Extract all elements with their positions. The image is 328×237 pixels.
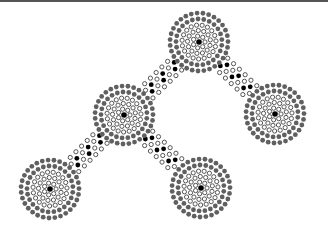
gray-dot — [200, 62, 205, 67]
open-dot — [256, 110, 260, 114]
gray-dot — [185, 20, 190, 25]
open-dot — [198, 174, 202, 178]
open-dot — [281, 120, 285, 124]
gray-dot — [174, 39, 179, 44]
gray-dot — [190, 18, 195, 23]
open-dot — [105, 111, 109, 115]
open-dot — [208, 43, 212, 47]
gray-dot — [120, 84, 125, 89]
open-dot — [214, 39, 218, 43]
open-dot — [156, 135, 160, 139]
open-dot — [205, 48, 209, 52]
gray-dot — [179, 63, 184, 68]
gray-dot — [250, 117, 255, 122]
gray-dot — [171, 195, 176, 200]
open-dot — [160, 65, 164, 69]
open-dot — [48, 204, 52, 208]
gray-dot — [174, 33, 179, 38]
gray-dot — [217, 199, 222, 204]
open-dot — [257, 105, 261, 109]
open-dot — [81, 157, 85, 161]
open-dot — [132, 127, 136, 131]
gray-dot — [19, 190, 24, 195]
gray-dot — [110, 93, 115, 98]
open-dot — [56, 172, 60, 176]
gray-dot — [244, 115, 249, 120]
gray-dot — [265, 84, 270, 89]
open-dot — [192, 195, 196, 199]
open-dot — [64, 191, 68, 195]
edge-middle-left-to-bottom-center — [143, 129, 184, 170]
open-dot — [191, 56, 195, 60]
open-dot — [261, 111, 265, 115]
gray-dot — [252, 122, 257, 127]
gray-dot — [76, 192, 81, 197]
open-dot — [94, 153, 98, 157]
gray-dot — [22, 201, 27, 206]
open-dot — [105, 117, 109, 121]
open-dot — [226, 56, 230, 60]
open-dot — [236, 80, 240, 84]
gray-dot — [131, 134, 136, 139]
gray-dot — [223, 28, 228, 33]
gray-dot — [182, 201, 187, 206]
gray-dot — [201, 17, 206, 22]
gray-dot — [144, 110, 149, 115]
gray-dot — [105, 128, 110, 133]
open-dot — [186, 53, 190, 57]
gray-dot — [104, 136, 109, 141]
gray-dot — [25, 186, 30, 191]
gray-dot — [206, 61, 211, 66]
gray-dot — [67, 165, 72, 170]
gray-dot — [297, 128, 302, 133]
gray-dot — [99, 118, 104, 123]
open-dot — [77, 169, 81, 173]
open-dot — [267, 102, 271, 106]
gray-dot — [26, 206, 31, 211]
open-dot — [261, 100, 265, 104]
gray-dot — [223, 51, 228, 56]
gray-dot — [105, 97, 110, 102]
open-dot — [224, 69, 228, 73]
open-dot — [112, 107, 116, 111]
open-dot — [237, 67, 241, 71]
filled-dot — [150, 89, 155, 94]
filled-dot — [173, 157, 178, 162]
open-dot — [61, 176, 65, 180]
gray-dot — [94, 122, 99, 127]
gray-dot — [141, 91, 146, 96]
gray-dot — [143, 122, 148, 127]
gray-dot — [256, 127, 261, 132]
open-dot — [278, 128, 282, 132]
gray-dot — [125, 135, 130, 140]
gray-dot — [225, 45, 230, 50]
open-dot — [289, 116, 293, 120]
open-dot — [262, 125, 266, 129]
open-dot — [120, 124, 124, 128]
open-dot — [106, 106, 110, 110]
open-dot — [122, 130, 126, 134]
open-dot — [197, 197, 201, 201]
gray-dot — [126, 141, 131, 146]
gray-dot — [171, 26, 176, 31]
gray-dot — [221, 56, 226, 61]
gray-dot — [137, 95, 142, 100]
open-dot — [119, 96, 123, 100]
gray-dot — [126, 84, 131, 89]
open-dot — [172, 164, 176, 168]
gray-dot — [136, 131, 141, 136]
open-dot — [249, 78, 253, 82]
gray-dot — [137, 88, 142, 93]
gray-dot — [145, 96, 150, 101]
gray-dot — [63, 162, 68, 167]
gray-dot — [291, 98, 296, 103]
open-dot — [202, 197, 206, 201]
filled-dot — [230, 75, 235, 80]
gray-dot — [288, 94, 293, 99]
gray-dot — [247, 126, 252, 131]
open-dot — [138, 117, 142, 121]
open-dot — [205, 25, 209, 29]
gray-dot — [22, 173, 27, 178]
open-dot — [128, 113, 132, 117]
open-dot — [59, 185, 63, 189]
